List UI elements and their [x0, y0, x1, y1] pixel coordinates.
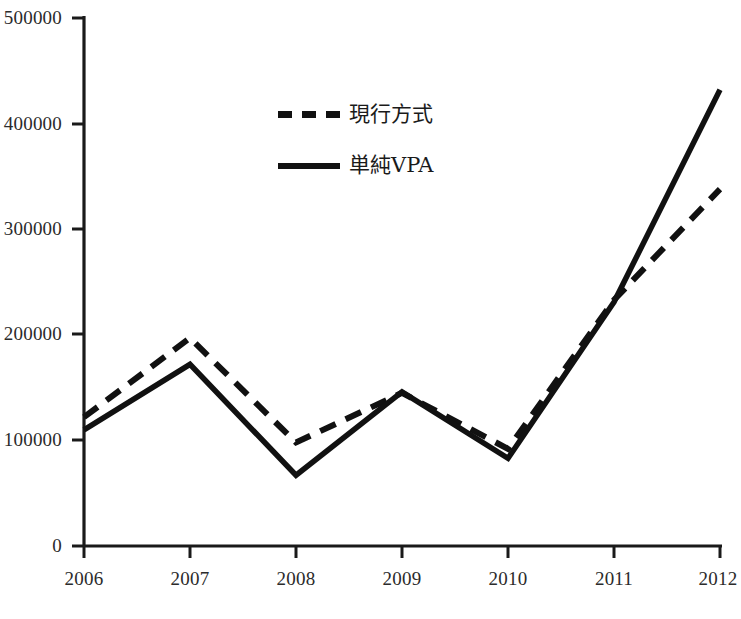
- line-chart: 500000 400000 300000 200000 100000 0 200…: [0, 0, 741, 619]
- y-tick-label-300000: 300000: [0, 218, 62, 240]
- y-axis-ticks: [72, 18, 84, 546]
- x-tick-label-2006: 2006: [65, 568, 104, 590]
- x-tick-label-2008: 2008: [277, 568, 316, 590]
- x-tick-label-2009: 2009: [383, 568, 422, 590]
- y-tick-label-400000: 400000: [0, 113, 62, 135]
- x-tick-label-2010: 2010: [489, 568, 528, 590]
- x-axis-ticks: [84, 546, 720, 558]
- legend-solid-line-swatch: [278, 163, 340, 169]
- data-series-layer: [84, 90, 720, 475]
- x-tick-label-2011: 2011: [595, 568, 633, 590]
- x-tick-label-2012: 2012: [699, 568, 738, 590]
- series-line-solid: [84, 90, 720, 475]
- legend-label-genkou-houshiki: 現行方式: [349, 104, 433, 125]
- y-tick-label-100000: 100000: [0, 429, 62, 451]
- legend-entry-genkou-houshiki: 現行方式: [278, 104, 433, 125]
- legend-label-tanjun-vpa: 単純VPA: [349, 155, 434, 176]
- legend-dashed-line-swatch: [278, 111, 340, 118]
- x-tick-label-2007: 2007: [171, 568, 210, 590]
- y-tick-label-0: 0: [0, 535, 62, 557]
- y-tick-label-500000: 500000: [0, 7, 62, 29]
- legend-entry-tanjun-vpa: 単純VPA: [278, 155, 434, 176]
- y-tick-label-200000: 200000: [0, 323, 62, 345]
- series-line-dashed: [84, 189, 720, 449]
- chart-plot-area: [0, 0, 741, 619]
